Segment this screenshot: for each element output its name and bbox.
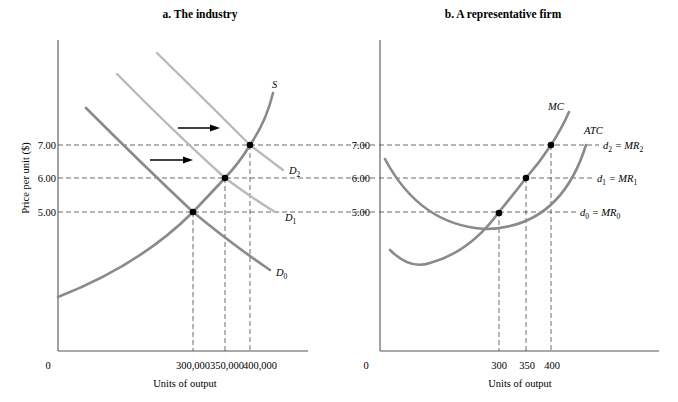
figure: a. The industry S D2 D1 D0 7.00 6.00 5.0…	[0, 0, 678, 402]
label-d2-MR2: d2 = MR2	[603, 140, 644, 154]
xtick-300k: 300,000	[176, 360, 210, 371]
arrowhead-icon	[183, 157, 193, 164]
ytick-5-b: 5.00	[352, 207, 370, 218]
ytick-7: 7.00	[38, 140, 56, 151]
curve-D2	[157, 53, 283, 170]
panel-b-title: b. A representative firm	[445, 8, 562, 21]
label-S: S	[272, 79, 278, 90]
ytick-6: 6.00	[38, 173, 56, 184]
label-D1: D1	[284, 212, 297, 226]
label-d0-MR0: d0 = MR0	[580, 207, 621, 221]
label-ATC: ATC	[583, 125, 604, 136]
ytick-6-b: 6.00	[352, 173, 370, 184]
label-D0: D0	[275, 267, 288, 281]
xtick-300: 300	[491, 360, 507, 371]
xtick-350: 350	[519, 360, 535, 371]
y-axis-label: Price per unit ($)	[20, 142, 32, 214]
xtick-400k: 400,000	[243, 360, 277, 371]
profit-max-point	[548, 142, 555, 149]
equilibrium-point	[247, 142, 254, 149]
ytick-7-b: 7.00	[352, 140, 370, 151]
curve-ATC	[385, 145, 586, 229]
xtick-400: 400	[544, 360, 560, 371]
curve-D0	[86, 108, 270, 270]
panel-a-title: a. The industry	[163, 8, 238, 21]
panel-b-x-label: Units of output	[488, 378, 552, 389]
xtick-350k: 350,000	[210, 360, 244, 371]
origin-label-b: 0	[363, 360, 368, 371]
profit-max-point	[523, 175, 530, 182]
ytick-5: 5.00	[38, 207, 56, 218]
label-MC: MC	[547, 101, 565, 112]
arrowhead-icon	[210, 125, 220, 132]
label-D2: D2	[288, 165, 301, 179]
profit-max-point	[496, 210, 503, 217]
curve-MC	[390, 112, 569, 265]
equilibrium-point	[222, 175, 229, 182]
equilibrium-point	[190, 209, 197, 216]
panel-a-x-label: Units of output	[153, 378, 217, 389]
origin-label: 0	[45, 360, 50, 371]
label-d1-MR1: d1 = MR1	[597, 173, 638, 187]
